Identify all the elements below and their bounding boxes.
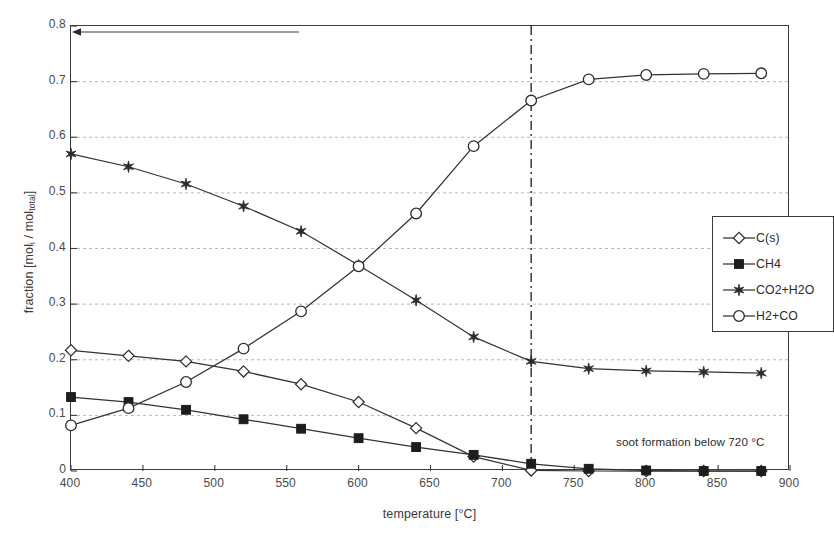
marker-square [699, 467, 708, 476]
marker-diamond [295, 379, 306, 390]
soot-formation-annotation-text: soot formation below 720 °C [616, 435, 764, 448]
legend-entry[interactable]: H2+CO [713, 303, 833, 329]
marker-square [297, 424, 306, 433]
soot-formation-arrow-icon [71, 26, 303, 38]
data-point-marker-square-filled [584, 464, 593, 473]
series-line-h2-co [71, 73, 761, 425]
data-point-marker-circle-open [181, 377, 192, 388]
data-point-marker-square-filled [735, 260, 744, 269]
marker-diamond [411, 423, 422, 434]
legend-marker-circle-open [722, 309, 756, 323]
marker-diamond [65, 345, 76, 356]
x-tick-label: 500 [184, 476, 244, 490]
data-point-marker-square-filled [182, 405, 191, 414]
x-tick-label: 850 [687, 476, 747, 490]
marker-circle [468, 141, 479, 152]
marker-circle [123, 403, 134, 414]
marker-diamond [180, 356, 191, 367]
data-point-marker-diamond-open [238, 366, 249, 377]
marker-square [239, 415, 248, 424]
data-point-marker-square-filled [642, 466, 651, 475]
y-tick-label: 0.8 [20, 17, 66, 31]
y-axis-tick-labels: 00.10.20.30.40.50.60.70.8 [0, 0, 66, 540]
x-tick-label: 750 [543, 476, 603, 490]
marker-square [757, 467, 766, 476]
plot-area: C(s)CH4CO2+H2OH2+CO soot formation below… [70, 25, 789, 470]
data-point-marker-star [469, 331, 479, 343]
marker-circle [296, 306, 307, 317]
plot-canvas [71, 26, 790, 471]
marker-square [67, 393, 76, 402]
data-point-marker-circle-open [238, 343, 249, 354]
legend-entry[interactable]: C(s) [713, 225, 833, 251]
x-tick-label: 400 [40, 476, 100, 490]
data-point-marker-circle-open [698, 69, 709, 80]
chart-legend: C(s)CH4CO2+H2OH2+CO [712, 216, 834, 332]
marker-circle [641, 70, 652, 81]
marker-square [584, 464, 593, 473]
data-point-marker-square-filled [757, 467, 766, 476]
caption-strip [0, 528, 819, 540]
marker-square [642, 466, 651, 475]
x-tick-label: 900 [759, 476, 819, 490]
legend-label: CO2+H2O [756, 283, 814, 297]
x-tick-label: 800 [615, 476, 675, 490]
y-tick-label: 0.2 [20, 351, 66, 365]
data-point-marker-square-filled [239, 415, 248, 424]
marker-star [239, 200, 249, 212]
data-point-marker-square-filled [699, 467, 708, 476]
x-tick-label: 450 [112, 476, 172, 490]
marker-diamond [733, 232, 744, 243]
marker-diamond [353, 396, 364, 407]
marker-circle [238, 343, 249, 354]
y-tick-label: 0 [20, 462, 66, 476]
data-point-marker-star [123, 161, 133, 173]
legend-entry[interactable]: CH4 [713, 251, 833, 277]
x-axis-title: temperature [°C] [70, 507, 789, 521]
data-point-marker-star [66, 148, 76, 160]
marker-circle [756, 68, 767, 79]
data-point-marker-circle-open [641, 70, 652, 81]
marker-star [123, 161, 133, 173]
data-point-marker-circle-open [123, 403, 134, 414]
marker-square [412, 443, 421, 452]
marker-square [354, 434, 363, 443]
x-tick-label: 550 [256, 476, 316, 490]
marker-square [469, 450, 478, 459]
marker-star [296, 225, 306, 237]
marker-square [735, 260, 744, 269]
series-line-c-s- [71, 350, 761, 471]
data-point-marker-square-filled [67, 393, 76, 402]
data-point-marker-diamond-open [733, 232, 744, 243]
marker-star [181, 178, 191, 190]
marker-square [527, 459, 536, 468]
data-point-marker-circle-open [526, 95, 537, 106]
legend-label: CH4 [756, 257, 781, 271]
legend-marker-star [722, 283, 756, 297]
y-tick-label: 0.5 [20, 184, 66, 198]
legend-marker-diamond-open [722, 231, 756, 245]
data-point-marker-diamond-open [65, 345, 76, 356]
data-point-marker-square-filled [354, 434, 363, 443]
x-tick-label: 600 [328, 476, 388, 490]
data-point-marker-square-filled [527, 459, 536, 468]
data-point-marker-circle-open [411, 208, 422, 219]
data-point-marker-star [181, 178, 191, 190]
y-tick-label: 0.7 [20, 73, 66, 87]
legend-entry[interactable]: CO2+H2O [713, 277, 833, 303]
data-point-marker-circle-open [353, 261, 364, 272]
marker-circle [353, 261, 364, 272]
y-tick-label: 0.1 [20, 406, 66, 420]
data-point-marker-square-filled [469, 450, 478, 459]
data-point-marker-star [239, 200, 249, 212]
data-point-marker-circle-open [66, 420, 77, 431]
marker-star [469, 331, 479, 343]
y-tick-label: 0.3 [20, 295, 66, 309]
marker-circle [526, 95, 537, 106]
y-tick-label: 0.6 [20, 128, 66, 142]
data-point-marker-diamond-open [353, 396, 364, 407]
data-point-marker-diamond-open [411, 423, 422, 434]
y-tick-label: 0.4 [20, 240, 66, 254]
marker-star [66, 148, 76, 160]
marker-circle [734, 311, 745, 322]
